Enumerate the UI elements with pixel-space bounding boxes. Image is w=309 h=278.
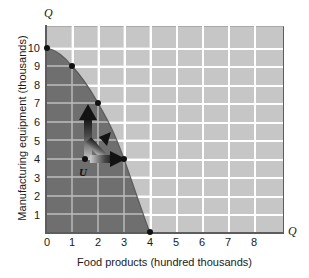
q-label-right: Q [288, 224, 297, 239]
x-tick-8: 8 [246, 236, 262, 248]
x-tick-4: 4 [142, 236, 158, 248]
x-tick-1: 1 [64, 236, 80, 248]
q-label-top: Q [44, 6, 53, 21]
data-point-1-9 [69, 63, 75, 69]
ppf-chart-figure: U Q Q 0 1 2 3 4 5 6 7 8 1 2 3 4 5 6 7 8 … [0, 0, 309, 278]
data-point-0-10 [44, 45, 50, 51]
data-point-u [82, 156, 88, 162]
data-point-4-0 [147, 229, 153, 235]
x-tick-5: 5 [168, 236, 184, 248]
point-u-label: U [79, 166, 87, 178]
x-tick-2: 2 [90, 236, 106, 248]
x-tick-3: 3 [116, 236, 132, 248]
data-point-2-7 [95, 100, 101, 106]
x-tick-7: 7 [220, 236, 236, 248]
x-tick-0: 0 [39, 236, 55, 248]
y-axis-title: Manufacturing equipment (thousands) [16, 18, 28, 238]
x-axis-line [45, 232, 284, 234]
x-axis-title: Food products (hundred thousands) [46, 256, 283, 268]
y-axis-line [45, 25, 47, 234]
data-point-3-4 [121, 156, 127, 162]
x-tick-6: 6 [194, 236, 210, 248]
